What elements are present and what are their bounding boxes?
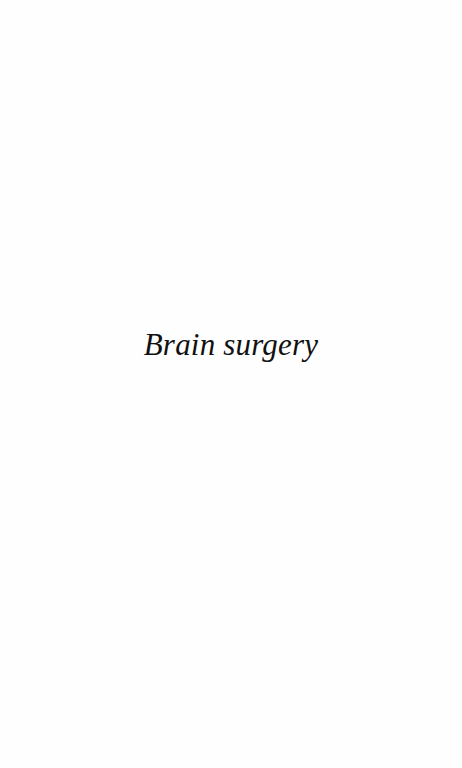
half-title: Brain surgery [0, 326, 462, 364]
book-page: Brain surgery [0, 0, 462, 768]
